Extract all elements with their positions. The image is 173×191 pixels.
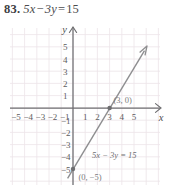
y-tick-5: 5 <box>63 42 68 52</box>
y-tick--3: −3 <box>61 140 71 150</box>
equation-term-1: 5x <box>23 2 35 16</box>
x-tick--5: −5 <box>11 112 21 122</box>
x-tick--3: −3 <box>36 112 46 122</box>
equation-operator-equals: = <box>57 2 66 16</box>
y-tick-1: 1 <box>63 91 68 101</box>
x-tick-2: 2 <box>95 112 100 122</box>
x-tick-5: 5 <box>132 112 137 122</box>
y-tick-2: 2 <box>63 79 68 89</box>
y-tick-3: 3 <box>63 67 68 77</box>
point-x-intercept <box>107 106 111 110</box>
grid-lines <box>10 28 160 185</box>
y-tick--5: −5 <box>61 165 71 175</box>
x-tick-4: 4 <box>120 112 125 122</box>
point-label-x-intercept: (3, 0) <box>114 95 133 105</box>
graph-svg: y x −5 −4 −3 −2 −1 1 2 3 4 5 5 4 3 2 <box>0 24 173 191</box>
problem-number: 83. <box>4 2 20 16</box>
x-tick--4: −4 <box>23 112 33 122</box>
line-equation-label: 5x − 3y = 15 <box>92 150 137 160</box>
y-tick--4: −4 <box>61 152 71 162</box>
point-label-y-intercept: (0, −5) <box>79 172 102 182</box>
y-tick-4: 4 <box>63 55 68 65</box>
x-tick-3: 3 <box>107 112 112 122</box>
x-tick-1: 1 <box>83 112 88 122</box>
y-tick--1: −1 <box>61 116 71 126</box>
equation-value: 15 <box>66 2 79 16</box>
problem-heading: 83.5x−3y=15 <box>4 2 79 17</box>
x-axis-label: x <box>158 112 164 123</box>
x-tick--2: −2 <box>48 112 58 122</box>
y-tick--2: −2 <box>61 128 71 138</box>
graph-figure: 83.5x−3y=15 <box>0 0 173 191</box>
equation-term-2: 3y <box>45 2 57 16</box>
line-arrow-up-icon <box>140 46 147 55</box>
equation-operator-minus: − <box>35 2 44 16</box>
point-y-intercept <box>71 167 75 171</box>
coordinate-plane: y x −5 −4 −3 −2 −1 1 2 3 4 5 5 4 3 2 <box>0 24 173 191</box>
problem-equation: 5x−3y=15 <box>23 2 79 16</box>
y-axis-label: y <box>61 24 67 35</box>
